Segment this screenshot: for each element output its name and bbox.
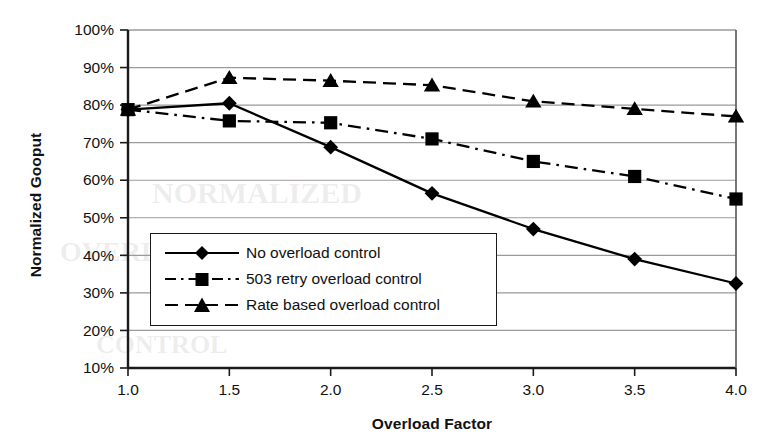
data-point-diamond [222,96,237,111]
series-rate-based-overload-control [120,70,744,123]
data-point-square [729,192,742,205]
legend-key-diamond-solid-icon [161,240,243,266]
plot-area [0,0,783,445]
data-point-square [324,116,337,129]
legend-item-no-overload-control: No overload control [151,240,496,266]
chart-legend: No overload control 503 retry overload c… [150,233,497,326]
legend-label: 503 retry overload control [243,270,422,288]
legend-label: No overload control [243,244,380,262]
data-point-diamond [526,222,541,237]
data-point-diamond [627,252,642,267]
data-point-diamond [425,186,440,201]
chart-figure: NORMALIZED OVERLOAD CONTROL Normalized G… [0,0,783,445]
legend-label: Rate based overload control [243,296,440,314]
data-point-square [425,132,438,145]
data-point-square [628,170,641,183]
x-axis-tick-marks [128,368,736,376]
legend-item-rate-based-overload-control: Rate based overload control [151,292,496,318]
legend-item-503-retry-overload-control: 503 retry overload control [151,266,496,292]
data-point-square [527,155,540,168]
data-point-square [223,114,236,127]
legend-key-square-dashdot-icon [161,266,243,292]
data-point-diamond [323,140,338,155]
legend-key-triangle-dashed-icon [161,292,243,318]
data-point-diamond [729,276,744,291]
series-line [128,110,736,199]
